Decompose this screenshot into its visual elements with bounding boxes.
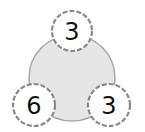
part-circle-bottom-left: 6 <box>13 84 55 126</box>
part-value-bottom-left: 6 <box>26 92 41 120</box>
number-bond-diagram: 3 6 3 <box>0 0 145 132</box>
part-circle-bottom-right: 3 <box>88 84 130 126</box>
part-value-bottom-right: 3 <box>101 92 116 120</box>
part-value-top: 3 <box>64 18 79 46</box>
part-circle-top: 3 <box>52 11 92 51</box>
